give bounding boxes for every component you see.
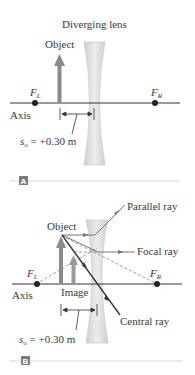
- parallel-ray-label: Parallel ray: [127, 200, 178, 212]
- lens-title: Diverging lens: [62, 18, 127, 30]
- diverging-lens-b: [86, 220, 108, 343]
- focal-right-label: FR: [150, 86, 163, 100]
- image-label: Image: [61, 286, 89, 298]
- central-ray-label: Central ray: [120, 315, 170, 327]
- focal-point-right: [152, 100, 158, 106]
- object-distance: so = +0.30 m: [20, 135, 77, 149]
- diverging-lens-diagram: Diverging lens Object FL FR Axis so = +0…: [0, 0, 195, 375]
- image-arrow: [69, 255, 78, 284]
- focal-point-left: [32, 100, 38, 106]
- panel-b: Object Image Parallel ray Focal ray Cent…: [10, 200, 182, 366]
- object-arrow: [54, 54, 65, 103]
- focal-left-label: FL: [29, 86, 41, 100]
- focal-left-label-b: FL: [26, 267, 38, 281]
- panel-badge-b-text: B: [23, 357, 29, 366]
- axis-label-b: Axis: [12, 289, 33, 301]
- virtual-ray-left: [36, 248, 97, 284]
- focal-point-right-b: [154, 281, 160, 287]
- focal-ray-label: Focal ray: [137, 245, 179, 257]
- object-distance-b: so = +0.30 m: [19, 333, 76, 347]
- axis-label: Axis: [10, 109, 31, 121]
- object-arrow-b: [56, 236, 66, 284]
- focal-point-left-b: [34, 281, 40, 287]
- panel-a: Diverging lens Object FL FR Axis so = +0…: [10, 18, 180, 186]
- focal-right-label-b: FR: [149, 267, 162, 281]
- object-label-b: Object: [47, 220, 76, 232]
- svg-text:A: A: [21, 177, 27, 186]
- object-label: Object: [45, 38, 74, 50]
